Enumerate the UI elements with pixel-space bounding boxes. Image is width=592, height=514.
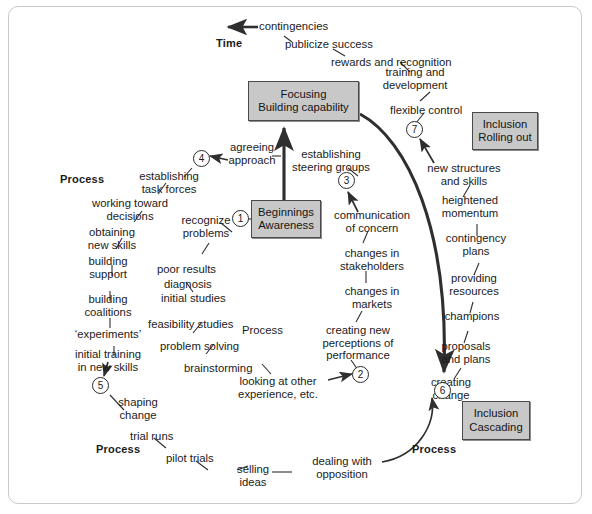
item-establishing-task-forces: establishing task forces bbox=[126, 170, 212, 195]
diagram-canvas: Time contingencies publicize success rew… bbox=[0, 0, 592, 514]
item-dealing-with-opposition: dealing with opposition bbox=[300, 455, 384, 480]
item-building-support: building support bbox=[68, 255, 148, 280]
process-label-bottom-right: Process bbox=[412, 443, 456, 456]
box-beginnings-line2: Awareness bbox=[258, 219, 314, 233]
item-looking-at-other-experience: looking at other experience, etc. bbox=[226, 375, 330, 400]
item-training-and-development: training and development bbox=[372, 66, 458, 91]
item-trial-runs: trial runs bbox=[130, 430, 173, 443]
box-beginnings-line1: Beginnings bbox=[258, 206, 314, 220]
item-establishing-steering-groups: establishing steering groups bbox=[283, 148, 379, 173]
item-contingencies: contingencies bbox=[259, 20, 328, 33]
item-creating-new-perceptions: creating new perceptions of performance bbox=[312, 324, 404, 362]
item-changes-in-stakeholders: changes in stakeholders bbox=[330, 247, 414, 272]
box-focusing-line2: Building capability bbox=[258, 101, 348, 115]
item-pilot-trials: pilot trials bbox=[166, 452, 214, 465]
item-working-toward-decisions: working toward decisions bbox=[78, 197, 182, 222]
new-structures-to-node7 bbox=[420, 139, 434, 163]
box-focusing-line1: Focusing bbox=[281, 88, 327, 102]
item-poor-results: poor results bbox=[157, 263, 216, 276]
item-selling-ideas: selling ideas bbox=[230, 463, 276, 488]
item-obtaining-new-skills: obtaining new skills bbox=[70, 226, 154, 251]
item-feasibility-studies: feasibility studies bbox=[148, 318, 233, 331]
node-2[interactable]: 2 bbox=[352, 366, 369, 383]
box-inclusion-rolling-out[interactable]: Inclusion Rolling out bbox=[472, 112, 538, 150]
process-label-top-left: Process bbox=[60, 173, 104, 186]
item-initial-studies: initial studies bbox=[161, 292, 226, 305]
box-inclusion-cascading[interactable]: Inclusion Cascading bbox=[462, 401, 530, 440]
item-flexible-control: flexible control bbox=[390, 104, 462, 117]
node-3[interactable]: 3 bbox=[338, 172, 355, 189]
box-focusing[interactable]: Focusing Building capability bbox=[248, 81, 359, 121]
node2-connectors bbox=[328, 374, 352, 380]
box-inclusion-cascading-line1: Inclusion bbox=[474, 407, 519, 421]
item-problem-solving: problem solving bbox=[160, 340, 239, 353]
item-champions: champions bbox=[430, 310, 514, 323]
process-label-center: Process bbox=[242, 324, 283, 337]
item-communication-of-concern: communication of concern bbox=[322, 209, 422, 234]
node-6[interactable]: 6 bbox=[434, 382, 451, 399]
item-building-coalitions: building coalitions bbox=[68, 293, 148, 318]
item-agreeing-approach: agreeing approach bbox=[222, 141, 282, 166]
box-inclusion-rolling-out-line1: Inclusion bbox=[483, 118, 528, 132]
box-inclusion-rolling-out-line2: Rolling out bbox=[478, 131, 531, 145]
node-5[interactable]: 5 bbox=[92, 377, 109, 394]
node-4[interactable]: 4 bbox=[193, 150, 210, 167]
item-shaping-change: shaping change bbox=[110, 396, 166, 421]
node-7[interactable]: 7 bbox=[406, 121, 423, 138]
process-label-bottom-left: Process bbox=[96, 443, 140, 456]
item-creating-change: creating change bbox=[414, 376, 488, 401]
item-contingency-plans: contingency plans bbox=[434, 232, 518, 257]
item-initial-training-in-new-skills: initial training in new skills bbox=[58, 348, 158, 373]
item-providing-resources: providing resources bbox=[432, 272, 516, 297]
item-new-structures-and-skills: new structures and skills bbox=[416, 162, 512, 187]
box-inclusion-cascading-line2: Cascading bbox=[469, 421, 522, 435]
item-changes-in-markets: changes in markets bbox=[332, 285, 412, 310]
item-proposals-and-plans: proposals and plans bbox=[424, 340, 508, 365]
item-brainstorming: brainstorming bbox=[184, 362, 252, 375]
box-beginnings[interactable]: Beginnings Awareness bbox=[251, 200, 321, 238]
item-experiments: ‘experiments’ bbox=[66, 328, 150, 341]
item-diagnosis: diagnosis bbox=[164, 278, 212, 291]
time-label: Time bbox=[216, 37, 242, 50]
item-publicize-success: publicize success bbox=[285, 38, 373, 51]
item-heightened-momentum: heightened momentum bbox=[428, 194, 512, 219]
node-1[interactable]: 1 bbox=[232, 210, 249, 227]
item-recognize-problems: recognize problems bbox=[172, 214, 240, 239]
